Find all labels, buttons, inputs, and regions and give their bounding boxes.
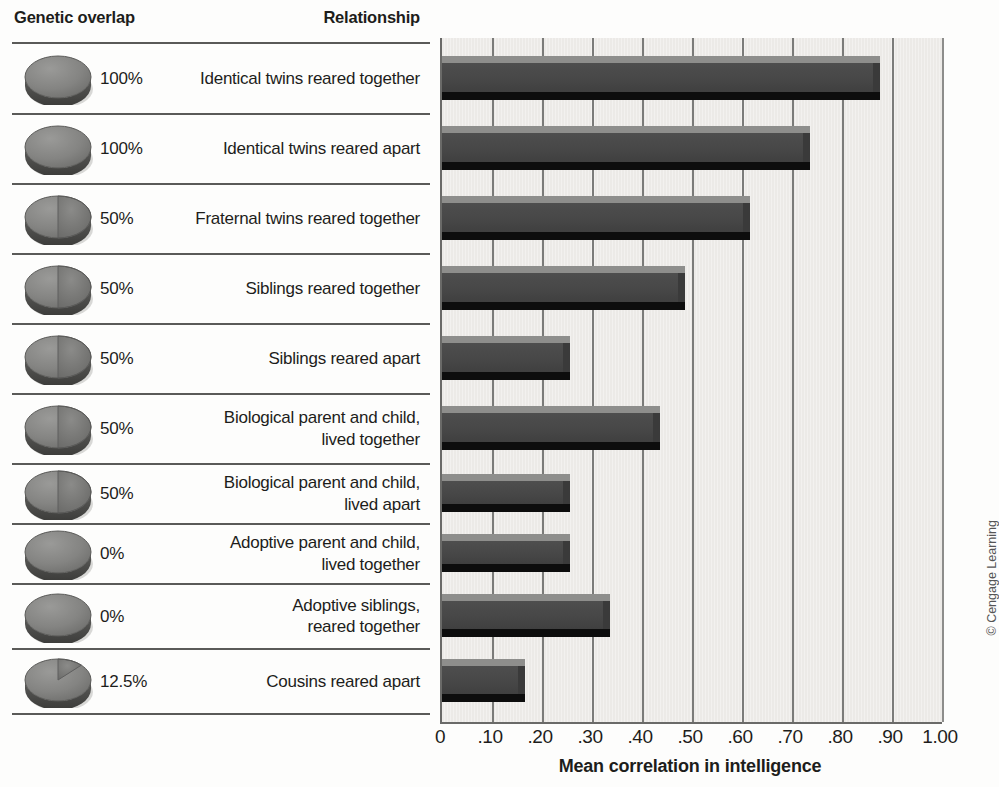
x-axis-tick-label: 1.00	[922, 726, 957, 748]
bar-row	[442, 594, 942, 637]
genetic-overlap-pie-icon	[22, 53, 94, 105]
genetic-overlap-pie-icon	[22, 591, 94, 643]
table-row[interactable]: 100%Identical twins reared apart	[0, 115, 432, 183]
genetic-overlap-pie-icon	[22, 123, 94, 175]
bar-shadow	[442, 92, 880, 100]
bar[interactable]	[442, 474, 570, 512]
table-row[interactable]: 100%Identical twins reared together	[0, 44, 432, 113]
x-axis-tick-label: .70	[777, 726, 802, 748]
x-axis-tick-label: .10	[477, 726, 502, 748]
table-row-separator	[12, 713, 430, 715]
bar-shadow	[442, 162, 810, 170]
bar-shadow	[442, 564, 570, 572]
bar-row	[442, 534, 942, 572]
bar[interactable]	[442, 406, 660, 450]
table-row[interactable]: 50%Biological parent and child, lived ap…	[0, 465, 432, 523]
genetic-overlap-percent: 0%	[100, 606, 124, 626]
relationship-label: Adoptive parent and child, lived togethe…	[230, 532, 420, 576]
genetic-overlap-pie-icon	[22, 193, 94, 245]
bar-shadow	[442, 372, 570, 380]
x-axis-tick-label: 0	[435, 726, 445, 748]
bar-row	[442, 266, 942, 310]
bar-shadow	[442, 694, 525, 702]
genetic-overlap-pie-icon	[22, 656, 94, 708]
relationship-label: Biological parent and child, lived apart	[224, 472, 420, 516]
bar[interactable]	[442, 659, 525, 702]
relationship-label: Identical twins reared together	[200, 68, 420, 90]
bar-row	[442, 474, 942, 512]
bar-front-face	[442, 203, 743, 233]
bar[interactable]	[442, 594, 610, 637]
table-row[interactable]: 12.5%Cousins reared apart	[0, 650, 432, 713]
relationship-label: Biological parent and child, lived toget…	[224, 407, 420, 451]
column-header-relationship: Relationship	[323, 8, 420, 27]
bar-shadow	[442, 504, 570, 512]
bar[interactable]	[442, 56, 880, 100]
bar-row	[442, 56, 942, 100]
bar-front-face	[442, 63, 873, 93]
genetic-overlap-percent: 50%	[100, 349, 133, 369]
bar[interactable]	[442, 196, 750, 240]
bar-row	[442, 336, 942, 380]
bar-row	[442, 659, 942, 702]
x-axis-tick-label: .80	[827, 726, 852, 748]
genetic-overlap-pie-icon	[22, 333, 94, 385]
x-axis-tick-label: .60	[727, 726, 752, 748]
table-row[interactable]: 50%Siblings reared together	[0, 255, 432, 323]
relationship-label: Identical twins reared apart	[223, 138, 420, 160]
x-axis-tick-labels: 0.10.20.30.40.50.60.70.80.901.00	[440, 726, 940, 754]
bar-shadow	[442, 302, 685, 310]
bar-front-face	[442, 273, 678, 303]
relationship-label: Adoptive siblings, reared together	[292, 595, 420, 639]
table-row[interactable]: 50%Fraternal twins reared together	[0, 185, 432, 253]
genetic-overlap-percent: 50%	[100, 279, 133, 299]
genetic-overlap-pie-icon	[22, 263, 94, 315]
table-row[interactable]: 50%Biological parent and child, lived to…	[0, 395, 432, 463]
table-row[interactable]: 0%Adoptive parent and child, lived toget…	[0, 525, 432, 583]
bar-front-face	[442, 601, 603, 630]
bar-front-face	[442, 541, 563, 565]
x-axis-title: Mean correlation in intelligence	[440, 756, 940, 777]
gridline	[942, 38, 944, 722]
bar-row	[442, 406, 942, 450]
bar-shadow	[442, 442, 660, 450]
genetic-overlap-percent: 12.5%	[100, 671, 147, 691]
bar[interactable]	[442, 266, 685, 310]
x-axis-tick-label: .30	[577, 726, 602, 748]
genetic-overlap-percent: 50%	[100, 484, 133, 504]
relationship-label: Siblings reared apart	[268, 348, 420, 370]
bar-front-face	[442, 666, 518, 695]
table-row[interactable]: 0%Adoptive siblings, reared together	[0, 585, 432, 648]
genetic-overlap-pie-icon	[22, 468, 94, 520]
bar-front-face	[442, 413, 653, 443]
genetic-overlap-percent: 100%	[100, 139, 143, 159]
relationship-label: Cousins reared apart	[266, 671, 420, 693]
bar-row	[442, 196, 942, 240]
x-axis-tick-label: .20	[527, 726, 552, 748]
table-header-row: Genetic overlap Relationship	[0, 8, 432, 38]
genetic-overlap-percent: 50%	[100, 209, 133, 229]
genetic-overlap-pie-icon	[22, 403, 94, 455]
x-axis-tick-label: .50	[677, 726, 702, 748]
bar-shadow	[442, 232, 750, 240]
relationship-label: Siblings reared together	[245, 278, 420, 300]
table-row[interactable]: 50%Siblings reared apart	[0, 325, 432, 393]
bar-shadow	[442, 629, 610, 637]
bar-chart-plot-area	[440, 38, 942, 724]
genetic-overlap-percent: 100%	[100, 68, 143, 88]
x-axis-tick-label: .90	[877, 726, 902, 748]
relationship-label: Fraternal twins reared together	[195, 208, 420, 230]
column-header-genetic-overlap: Genetic overlap	[14, 8, 135, 27]
bar-front-face	[442, 133, 803, 163]
x-axis-tick-label: .40	[627, 726, 652, 748]
bar-row	[442, 126, 942, 170]
bar-front-face	[442, 481, 563, 505]
bar[interactable]	[442, 126, 810, 170]
bar[interactable]	[442, 534, 570, 572]
genetic-overlap-percent: 0%	[100, 544, 124, 564]
relationship-table: Genetic overlap Relationship 100%Ident	[0, 0, 432, 722]
copyright-notice: © Cengage Learning	[985, 520, 999, 636]
bar-front-face	[442, 343, 563, 373]
bar[interactable]	[442, 336, 570, 380]
